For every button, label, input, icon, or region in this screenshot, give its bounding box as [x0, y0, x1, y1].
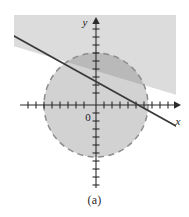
x-axis-label: x — [175, 115, 181, 127]
origin-label: 0 — [85, 111, 91, 123]
y-axis-label: y — [82, 16, 88, 28]
figure-panel: y x 0 (a) — [0, 0, 189, 217]
figure-graph: y x 0 — [0, 0, 189, 217]
figure-caption: (a) — [0, 193, 189, 208]
